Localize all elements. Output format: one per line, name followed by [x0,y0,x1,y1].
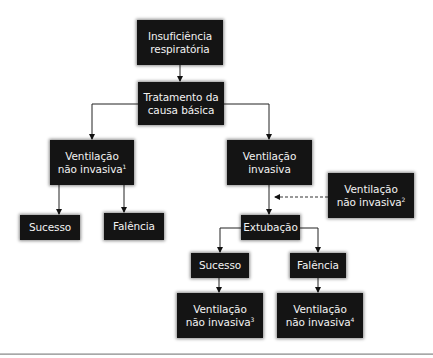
node-extubacao: Extubação [241,215,300,240]
footnote-marker: 4 [351,316,355,323]
node-text-line2: respiratória [150,43,209,55]
node-tratamento-causa-basica: Tratamento dacausa básica [138,82,224,125]
node-label: Falência [297,259,339,272]
node-text-line2: causa básica [148,104,215,116]
footnote-marker: 3 [251,316,255,323]
node-vni-2: Ventilaçãonão invasiva2 [328,173,414,218]
node-text-line1: Ventilação [344,183,398,195]
node-vni-1: Ventilaçãonão invasiva1 [50,140,134,185]
node-label: Sucesso [29,221,71,234]
footnote-marker: 1 [123,163,127,170]
node-label: Sucesso [199,259,241,272]
node-ventilacao-invasiva: Ventilaçãoinvasiva [227,140,312,185]
node-text-line1: Ventilação [293,303,347,315]
node-text-line1: Tratamento da [143,91,218,103]
node-label: Extubação [243,221,297,234]
node-sucesso-vni: Sucesso [20,215,80,240]
footnote-marker: 2 [402,196,406,203]
node-sucesso-extubacao: Sucesso [191,253,249,278]
bottom-divider [0,353,433,355]
node-label: Falência [113,220,155,233]
node-text-line2: não invasiva [337,196,402,208]
node-text-line1: Ventilação [65,150,119,162]
node-vni-4: Ventilaçãonão invasiva4 [277,293,363,338]
node-vni-3: Ventilaçãonão invasiva3 [177,293,263,338]
node-text-line1: Insuficiência [148,30,212,42]
node-text-line2: invasiva [248,163,290,175]
node-text-line2: não invasiva [186,316,251,328]
node-text-line1: Ventilação [193,303,247,315]
node-text-line2: não invasiva [286,316,351,328]
node-falencia-extubacao: Falência [290,253,346,278]
node-text-line1: Ventilação [243,150,297,162]
node-text-line2: não invasiva [58,163,123,175]
node-insuficiencia-respiratoria: Insuficiênciarespiratória [137,20,223,65]
node-falencia-vni: Falência [104,213,164,240]
